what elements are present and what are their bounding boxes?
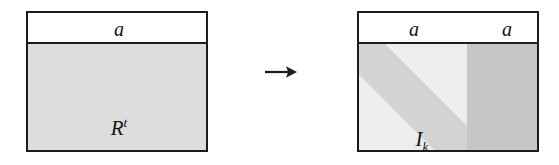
left-header-label-a: a (114, 19, 124, 39)
identity-block-label-i-k: Ik (416, 129, 429, 150)
right-matrix-body-region: Ik R*t (359, 44, 537, 150)
identity-block-pane: Ik (359, 44, 467, 150)
rstar-block-pane: R*t (467, 44, 537, 150)
identity-diagonal-band (359, 44, 467, 150)
identity-label-base: I (416, 127, 423, 151)
left-matrix-label-r-transpose: Rt (111, 118, 127, 139)
left-matrix-header-strip: a (28, 13, 206, 44)
right-header-label-a-right: a (502, 19, 512, 39)
right-header-label-a-left: a (409, 19, 419, 39)
left-matrix-box: a Rt (26, 11, 208, 152)
transformation-arrow-icon (264, 58, 298, 86)
left-matrix-label-base: R (111, 116, 124, 140)
identity-label-subscript: k (423, 139, 429, 150)
matrix-transformation-figure: a Rt a a Ik R*t (0, 0, 559, 165)
right-matrix-header-strip: a a (359, 13, 537, 44)
left-matrix-label-exponent: t (124, 115, 128, 130)
left-matrix-body-region: Rt (28, 44, 206, 150)
right-matrix-box: a a Ik R*t (357, 11, 539, 152)
